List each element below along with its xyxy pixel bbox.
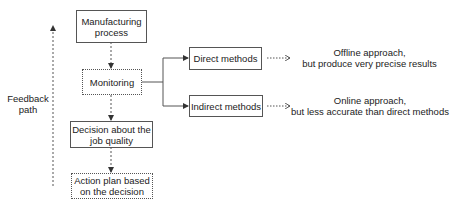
direct-methods-note: Offline approach, but produce very preci… [292, 47, 447, 69]
node-label: Decision about the [72, 124, 151, 135]
note-line: but less accurate than direct methods [291, 106, 449, 117]
label-line: Feedback [6, 93, 50, 104]
note-line: Online approach, [291, 95, 449, 106]
node-label: Direct methods [194, 53, 258, 64]
monitoring-node: Monitoring [82, 69, 142, 95]
indirect-methods-node: Indirect methods [189, 95, 263, 117]
manufacturing-process-node: Manufacturing process [76, 10, 147, 43]
note-line: Offline approach, [292, 47, 447, 58]
label-line: path [6, 104, 50, 115]
node-label: on the decision [80, 186, 144, 197]
indirect-methods-note: Online approach, but less accurate than … [291, 95, 449, 117]
node-label: Action plan based [74, 175, 150, 186]
node-label: job quality [90, 135, 133, 146]
direct-methods-node: Direct methods [189, 47, 262, 70]
node-label: Monitoring [90, 77, 134, 88]
decision-node: Decision about the job quality [70, 121, 153, 148]
note-line: but produce very precise results [292, 58, 447, 69]
node-label: process [95, 27, 128, 38]
feedback-path-label: Feedback path [6, 93, 50, 115]
node-label: Manufacturing [81, 16, 141, 27]
node-label: Indirect methods [191, 101, 261, 112]
action-plan-node: Action plan based on the decision [71, 173, 153, 199]
